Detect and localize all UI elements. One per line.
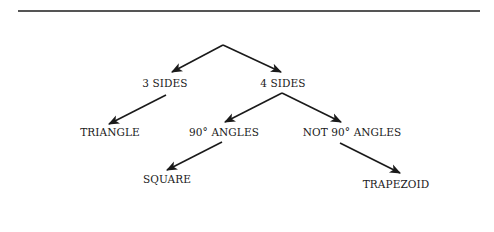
- edge-90-square: [167, 142, 222, 170]
- node-trapezoid: TRAPEZOID: [363, 178, 430, 190]
- tree-edges: [0, 0, 494, 232]
- edge-4sides-not90: [282, 93, 341, 122]
- edge-3sides-triangle: [109, 95, 166, 124]
- node-90-angles: 90° ANGLES: [189, 126, 259, 138]
- edge-root-3sides: [172, 45, 223, 72]
- edge-not90-trapezoid: [340, 143, 400, 173]
- node-4-sides: 4 SIDES: [260, 77, 305, 89]
- node-3-sides: 3 SIDES: [142, 77, 187, 89]
- node-not-90-angles: NOT 90° ANGLES: [303, 126, 401, 138]
- node-square: SQUARE: [143, 173, 191, 185]
- edge-root-4sides: [223, 45, 281, 72]
- node-triangle: TRIANGLE: [80, 126, 140, 138]
- edge-4sides-90: [225, 93, 282, 122]
